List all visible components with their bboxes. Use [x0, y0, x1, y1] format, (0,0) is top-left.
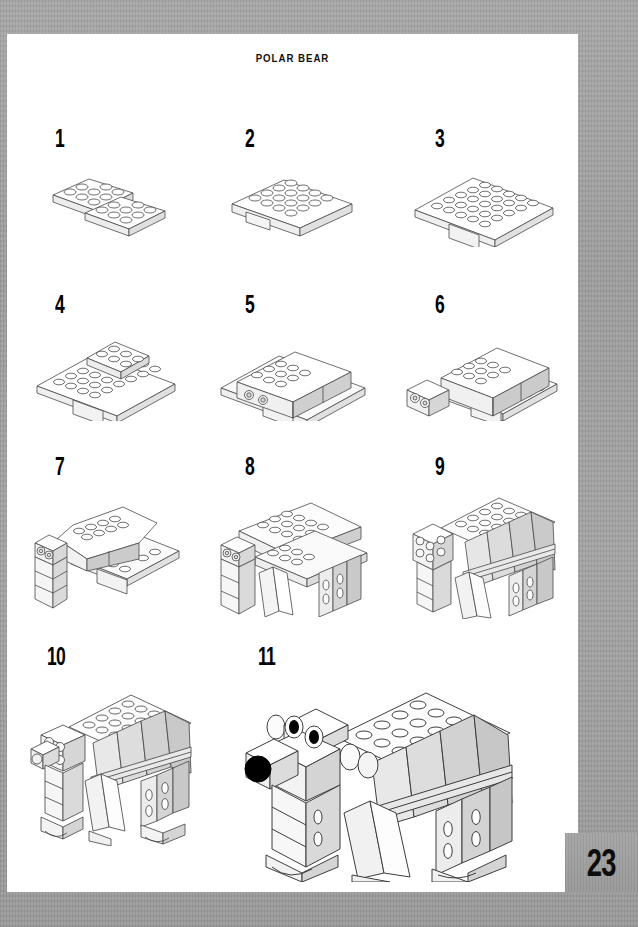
- step-number: 1: [55, 126, 64, 151]
- step-number: 6: [435, 292, 444, 317]
- step-5-illustration: [215, 326, 375, 421]
- page-number-tab: 23: [565, 833, 638, 892]
- step-3-illustration: [407, 162, 562, 247]
- step-3: 3: [387, 94, 578, 244]
- step-11: 11: [222, 629, 578, 879]
- manual-page: POLAR BEAR 1: [0, 0, 638, 927]
- step-number: 8: [245, 454, 254, 479]
- eye-left: [289, 720, 299, 734]
- step-7: 7: [7, 429, 197, 614]
- step-8-illustration: [215, 487, 380, 617]
- step-11-illustration: [240, 677, 540, 882]
- step-2: 2: [197, 94, 387, 244]
- step-5: 5: [197, 264, 387, 424]
- step-number: 10: [47, 644, 65, 669]
- step-8: 8: [197, 429, 387, 614]
- step-10: 10: [7, 629, 222, 854]
- eye-right: [309, 730, 319, 744]
- step-9: 9: [387, 429, 578, 614]
- step-4: 4: [7, 264, 197, 424]
- step-number: 7: [55, 454, 64, 479]
- step-number: 9: [435, 454, 444, 479]
- step-number: 2: [245, 126, 254, 151]
- step-1: 1: [7, 94, 197, 244]
- step-1-illustration: [37, 169, 177, 239]
- nose: [245, 756, 271, 782]
- step-2-illustration: [222, 166, 367, 241]
- step-4-illustration: [29, 326, 184, 421]
- step-number: 5: [245, 292, 254, 317]
- step-number: 3: [435, 126, 444, 151]
- page-title: POLAR BEAR: [41, 52, 543, 64]
- step-number: 4: [55, 292, 64, 317]
- step-6-illustration: [401, 326, 566, 421]
- step-9-illustration: [403, 484, 571, 619]
- page-number: 23: [587, 844, 616, 882]
- paper-sheet: POLAR BEAR 1: [7, 34, 578, 892]
- step-10-illustration: [27, 681, 212, 846]
- step-7-illustration: [27, 487, 187, 612]
- step-6: 6: [387, 264, 578, 424]
- step-number: 11: [258, 644, 275, 669]
